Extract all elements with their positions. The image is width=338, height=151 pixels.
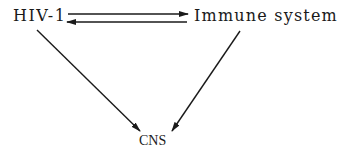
node-immune-system: Immune system — [194, 8, 338, 24]
node-cns: CNS — [139, 134, 166, 148]
arrow-immune-to-cns — [172, 31, 240, 131]
diagram-canvas: HIV-1 Immune system CNS — [0, 0, 338, 151]
arrow-hiv-to-cns — [37, 30, 140, 131]
node-hiv-1: HIV-1 — [13, 8, 66, 24]
